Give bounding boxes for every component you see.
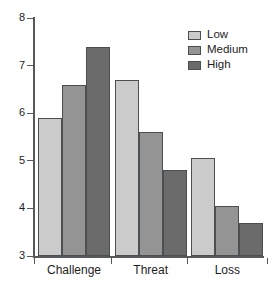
bar-challenge-high: [86, 47, 110, 256]
bar-loss-low: [191, 158, 215, 256]
legend-swatch-icon-medium: [188, 46, 201, 55]
bar-threat-low: [115, 80, 139, 256]
bar-challenge-medium: [62, 85, 86, 256]
bar-challenge-low: [38, 118, 62, 256]
legend-label-low: Low: [207, 29, 228, 41]
bar-threat-high: [163, 170, 187, 256]
legend-label-medium: Medium: [207, 44, 248, 56]
legend: LowMediumHigh: [188, 29, 248, 74]
legend-swatch-icon-low: [188, 31, 201, 40]
legend-item-medium: Medium: [188, 44, 248, 56]
bar-loss-medium: [215, 206, 239, 256]
x-axis-label-loss: Loss: [182, 264, 272, 277]
legend-swatch-icon-high: [188, 61, 201, 70]
legend-item-low: Low: [188, 29, 248, 41]
legend-item-high: High: [188, 59, 248, 71]
bar-loss-high: [239, 223, 263, 256]
legend-label-high: High: [207, 59, 231, 71]
bar-chart: 345678 ChallengeThreatLoss LowMediumHigh: [0, 0, 272, 294]
bar-threat-medium: [139, 132, 163, 256]
